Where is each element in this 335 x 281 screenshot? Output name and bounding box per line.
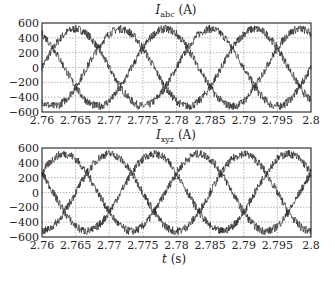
x-tick-label: 2.775 bbox=[127, 239, 159, 252]
y-tick-label: 400 bbox=[18, 157, 39, 170]
x-tick-label: 2.79 bbox=[232, 239, 257, 252]
y-tick-label: −600 bbox=[9, 106, 39, 119]
x-tick-label: 2.775 bbox=[127, 114, 159, 127]
y-tick-label: −600 bbox=[9, 231, 39, 244]
x-tick-label: 2.78 bbox=[164, 114, 189, 127]
x-tick-label: 2.795 bbox=[262, 114, 294, 127]
y-tick-label: 0 bbox=[32, 62, 39, 75]
x-tick-label: 2.8 bbox=[302, 239, 320, 252]
x-tick-label: 2.785 bbox=[194, 114, 226, 127]
x-tick-label: 2.8 bbox=[302, 114, 320, 127]
x-tick-label: 2.785 bbox=[194, 239, 226, 252]
chart-panel-2: 2.762.7652.772.7752.782.7852.792.7952.86… bbox=[9, 142, 320, 252]
y-tick-label: 400 bbox=[18, 32, 39, 45]
y-tick-label: 200 bbox=[18, 47, 39, 60]
x-tick-label: 2.765 bbox=[60, 239, 92, 252]
y-tick-label: −200 bbox=[9, 201, 39, 214]
y-tick-label: −400 bbox=[9, 216, 39, 229]
x-tick-label: 2.78 bbox=[164, 239, 189, 252]
chart-panel-1: 2.762.7652.772.7752.782.7852.792.7952.86… bbox=[9, 17, 320, 127]
y-tick-label: 0 bbox=[32, 187, 39, 200]
y-tick-label: 600 bbox=[18, 17, 39, 30]
x-tick-label: 2.77 bbox=[97, 239, 122, 252]
y-tick-label: 200 bbox=[18, 172, 39, 185]
y-tick-label: −400 bbox=[9, 91, 39, 104]
x-tick-label: 2.77 bbox=[97, 114, 122, 127]
y-tick-label: −200 bbox=[9, 76, 39, 89]
x-tick-label: 2.795 bbox=[262, 239, 294, 252]
x-tick-label: 2.79 bbox=[232, 114, 257, 127]
y-tick-label: 600 bbox=[18, 142, 39, 155]
x-tick-label: 2.765 bbox=[60, 114, 92, 127]
chart-canvas: 2.762.7652.772.7752.782.7852.792.7952.86… bbox=[0, 0, 335, 281]
